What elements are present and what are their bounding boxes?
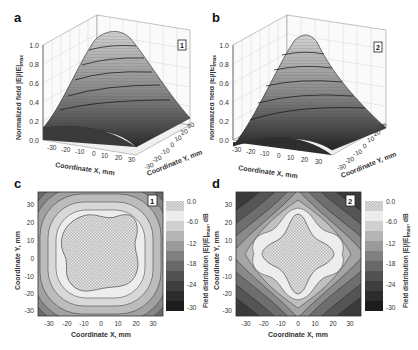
colorbar-tick: 0.0: [187, 198, 196, 205]
z-tick: 0.0: [219, 137, 229, 144]
y-tick: -10: [159, 146, 171, 156]
y-tick: 0: [169, 140, 175, 148]
x-tick: 10: [101, 152, 109, 159]
z-tick: 0.2: [29, 118, 39, 125]
colorbar-tick: -18: [386, 260, 396, 267]
x-tick: 20: [301, 156, 309, 163]
svg-text:1: 1: [150, 197, 154, 206]
svg-text:2: 2: [376, 44, 380, 51]
z-tick: 0.6: [219, 80, 229, 87]
colorbar-tick: 0.0: [386, 198, 395, 205]
x-tick: 0: [296, 320, 300, 327]
y-tick: -10: [25, 273, 35, 280]
colorbar-d: [365, 201, 383, 311]
x-tick: 30: [149, 320, 157, 327]
y-tick: -30: [223, 307, 233, 314]
colorbar-c: [166, 201, 184, 311]
colorbar-tick: -12: [386, 240, 396, 247]
x-tick: -20: [62, 320, 72, 327]
y-tick: -20: [25, 290, 35, 297]
y-tick: 0: [228, 255, 232, 262]
x-tick: 10: [114, 320, 122, 327]
svg-text:1: 1: [180, 42, 184, 49]
x-axis-label: Coordinate X, mm: [71, 331, 131, 339]
x-tick: 20: [115, 154, 123, 161]
x-tick: 10: [311, 320, 319, 327]
colorbar-tick: -6.0: [187, 218, 199, 225]
x-tick: 0: [92, 150, 96, 157]
svg-text:2: 2: [348, 197, 352, 206]
x-tick: 0: [99, 320, 103, 327]
y-tick: -20: [223, 290, 233, 297]
y-tick: 20: [27, 219, 35, 226]
x-tick: -10: [79, 320, 89, 327]
z-tick: 0.4: [29, 99, 39, 106]
x-tick: -30: [241, 320, 251, 327]
colorbar-tick: -6.0: [386, 218, 398, 225]
surface-plot-a: 0.0 0.2 0.4 0.6 0.8 1.0 Normalized field…: [0, 0, 210, 180]
z-tick: 0.4: [219, 99, 229, 106]
colorbar-tick: -24: [187, 281, 197, 288]
contour-plot-d: 2 -30 -20 -10 0 10 20 30 Coordinate Y, m…: [210, 170, 418, 350]
z-axis-label: Normalized field |E|/|E|max: [15, 55, 24, 140]
x-tick: -10: [75, 148, 85, 155]
surface-plot-b: 0.0 0.2 0.4 0.6 0.8 1.0 Normalized field…: [210, 0, 418, 180]
y-tick: -10: [223, 273, 233, 280]
z-tick: 1.0: [219, 42, 229, 49]
x-tick: -30: [232, 146, 242, 153]
y-axis-label: Coordinate Y, mm: [14, 231, 22, 290]
y-tick: 30: [27, 201, 35, 208]
x-tick: 20: [132, 320, 140, 327]
x-tick: -20: [246, 148, 256, 155]
colorbar-tick: -30: [187, 304, 197, 311]
y-tick: 30: [225, 201, 233, 208]
y-tick: 0: [30, 255, 34, 262]
x-tick: 30: [128, 156, 136, 163]
colorbar-tick: -18: [187, 260, 197, 267]
y-tick: 10: [225, 237, 233, 244]
contour-plot-c: 1 -30 -20 -10 0 10 20 30 Coordinate Y, m…: [0, 170, 210, 350]
x-tick: -20: [259, 320, 269, 327]
x-tick: -10: [260, 150, 270, 157]
colorbar-tick: -30: [386, 304, 396, 311]
z-tick: 0.2: [219, 118, 229, 125]
y-axis-label: Coordinate Y, mm: [213, 231, 221, 290]
y-tick: 30: [186, 120, 196, 129]
x-tick: -30: [47, 144, 57, 151]
x-tick: -10: [276, 320, 286, 327]
colorbar-tick: -24: [386, 281, 396, 288]
y-tick: 0: [362, 142, 368, 150]
x-axis-label: Coordinate X, mm: [268, 331, 328, 339]
y-tick: 10: [27, 237, 35, 244]
z-axis-label: Normalized field |E|/|E|max: [210, 55, 217, 140]
z-tick: 0.8: [219, 61, 229, 68]
z-tick: 0.8: [29, 61, 39, 68]
y-tick: -30: [25, 307, 35, 314]
x-tick: -20: [61, 146, 71, 153]
z-tick: 1.0: [29, 42, 39, 49]
x-tick: 20: [329, 320, 337, 327]
x-tick: 30: [315, 158, 323, 165]
z-tick: 0.0: [29, 137, 39, 144]
y-tick: 30: [378, 122, 388, 131]
x-tick: 0: [277, 152, 281, 159]
y-tick: 20: [225, 219, 233, 226]
z-tick: 0.6: [29, 80, 39, 87]
y-tick: -10: [352, 148, 364, 158]
colorbar-label: Field distribution |E|/|E|max, dB: [202, 213, 210, 308]
colorbar-label: Field distribution |E|/|E|max, dB: [402, 213, 411, 308]
x-tick: -30: [44, 320, 54, 327]
x-tick: 10: [287, 154, 295, 161]
colorbar-tick: -12: [187, 240, 197, 247]
x-tick: 30: [346, 320, 354, 327]
